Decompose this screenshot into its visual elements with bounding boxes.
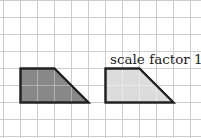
scale-factor-label: scale factor 1 xyxy=(110,51,201,67)
diagram-canvas: scale factor 1 xyxy=(0,0,201,138)
